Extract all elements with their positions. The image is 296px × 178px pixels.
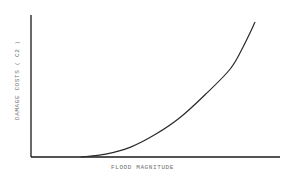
damage-curve: [81, 22, 255, 157]
y-axis-label: DAMAGE COSTS ( C2 ): [14, 40, 21, 120]
chart-canvas: [0, 0, 296, 178]
x-axis-label: FLOOD MAGNITUDE: [111, 164, 174, 171]
